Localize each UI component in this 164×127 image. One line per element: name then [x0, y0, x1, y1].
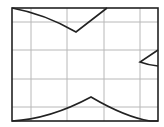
- grid-diagram: [0, 0, 164, 127]
- top-v-curve: [12, 8, 107, 32]
- bottom-peak-curve: [12, 97, 158, 121]
- right-chevron: [140, 50, 158, 66]
- diagram-curves: [12, 8, 158, 121]
